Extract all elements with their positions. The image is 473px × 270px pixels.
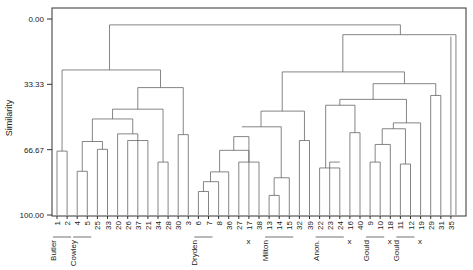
leaf-label: 27: [235, 220, 244, 229]
y-axis: 0.0033.3366.67100.00: [20, 15, 52, 220]
y-tick-label: 100.00: [20, 211, 45, 220]
leaf-label: 18: [386, 220, 395, 229]
leaf-label: 2: [63, 220, 72, 225]
leaf-label: 8: [215, 220, 224, 225]
leaf-label: 5: [83, 220, 92, 225]
leaf-label: 22: [316, 220, 325, 229]
leaf-label: 11: [396, 220, 405, 229]
group-label: Cowley: [69, 240, 78, 266]
dendrogram-chart: 0.0033.3366.67100.00 Similarity 12452533…: [0, 0, 473, 270]
leaf-label: 10: [376, 220, 385, 229]
leaf-label: 39: [306, 220, 315, 229]
leaf-label: 37: [134, 220, 143, 229]
leaf-label: 7: [205, 220, 214, 225]
leaf-label: 34: [154, 220, 163, 229]
group-label: Gould: [362, 240, 371, 261]
y-tick-label: 33.33: [24, 80, 45, 89]
leaf-label: 40: [356, 220, 365, 229]
leaf-label: 4: [73, 220, 82, 225]
group-label: Anon.: [312, 240, 321, 261]
x-marker-icon: x: [388, 237, 392, 246]
leaf-label: 1: [53, 220, 62, 225]
leaf-label: 25: [93, 220, 102, 229]
x-marker-icon: x: [418, 237, 422, 246]
leaf-label: 35: [447, 220, 456, 229]
leaf-label: 38: [255, 220, 264, 229]
group-label: Gould: [392, 240, 401, 261]
leaf-label: 20: [114, 220, 123, 229]
leaf-label: 26: [124, 220, 133, 229]
leaf-label: 12: [407, 220, 416, 229]
leaf-label: 36: [225, 220, 234, 229]
leaf-label: 19: [417, 220, 426, 229]
leaf-label: 14: [275, 220, 284, 229]
leaf-label: 29: [427, 220, 436, 229]
x-marker-icon: x: [246, 237, 250, 246]
leaf-label: 33: [104, 220, 113, 229]
leaf-label: 6: [194, 220, 203, 225]
leaf-label: 31: [437, 220, 446, 229]
leaf-label: 30: [174, 220, 183, 229]
x-marker-icon: x: [347, 237, 351, 246]
leaf-label: 21: [144, 220, 153, 229]
leaf-label: 9: [366, 220, 375, 225]
y-tick-label: 0.00: [28, 15, 44, 24]
leaf-label: 28: [164, 220, 173, 229]
group-labels: ButlerCowleyDrydenMiltonAnon.GouldGould: [49, 237, 415, 266]
group-label: Milton: [261, 240, 270, 261]
leaf-label: 13: [265, 220, 274, 229]
leaf-label: 16: [346, 220, 355, 229]
y-tick-label: 66.67: [24, 146, 45, 155]
leaf-label: 23: [326, 220, 335, 229]
leaf-label: 24: [336, 220, 345, 229]
leaf-label: 32: [295, 220, 304, 229]
dendrogram-tree: [57, 25, 456, 215]
group-label: Butler: [49, 240, 58, 261]
leaf-label: 15: [285, 220, 294, 229]
leaf-label: 17: [245, 220, 254, 229]
group-label: Dryden: [190, 240, 199, 266]
y-axis-label: Similarity: [4, 99, 14, 136]
leaf-label: 3: [184, 220, 193, 225]
